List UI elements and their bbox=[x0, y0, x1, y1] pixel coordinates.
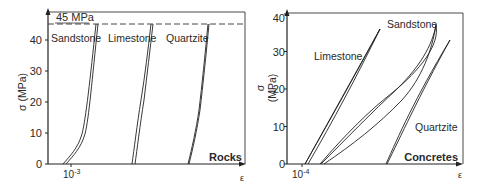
y-axis-label-unit: (MPa) bbox=[266, 74, 278, 103]
series-quartzite-concretes bbox=[386, 40, 450, 164]
x-axis-label: ε bbox=[240, 173, 244, 183]
y-axis-arrow-icon bbox=[46, 8, 51, 15]
y-axis-arrow-icon bbox=[285, 9, 290, 16]
series-limestone-rocks bbox=[132, 24, 153, 164]
y-tick-label: 0 bbox=[36, 158, 42, 170]
series-label-quartzite: Quartzite bbox=[166, 32, 209, 44]
figure: 0 10 20 30 40 σ (MPa) 45 MPa Sandstone L… bbox=[0, 0, 478, 185]
y-tick-label: 10 bbox=[273, 121, 285, 133]
y-axis-label-sigma: σ bbox=[254, 84, 266, 91]
y-tick-label: 0 bbox=[279, 158, 285, 170]
series-quartzite-rocks bbox=[188, 24, 209, 164]
rocks-panel: 0 10 20 30 40 σ (MPa) 45 MPa Sandstone L… bbox=[16, 8, 246, 183]
panel-label-concretes: Concretes bbox=[404, 151, 458, 163]
x-axis-label: ε bbox=[458, 170, 462, 180]
series-label-quartzite: Quartzite bbox=[415, 121, 458, 133]
concretes-panel: 0 10 20 30 40 σ (MPa) Limestone Sandston… bbox=[254, 9, 463, 180]
y-tick-label: 40 bbox=[273, 12, 285, 24]
x-tick-label: 10-4 bbox=[292, 168, 309, 180]
y-tick-label: 10 bbox=[30, 127, 42, 139]
series-label-sandstone: Sandstone bbox=[387, 18, 437, 30]
panel-label-rocks: Rocks bbox=[209, 151, 242, 163]
y-tick-label: 40 bbox=[30, 34, 42, 46]
y-tick-label: 30 bbox=[273, 46, 285, 58]
y-tick-label: 20 bbox=[30, 96, 42, 108]
limit-label: 45 MPa bbox=[56, 11, 95, 23]
series-label-limestone: Limestone bbox=[314, 50, 363, 62]
series-sandstone-rocks bbox=[63, 24, 98, 164]
y-axis-label: σ (MPa) bbox=[16, 73, 28, 111]
x-tick-label: 10-3 bbox=[63, 168, 80, 180]
y-tick-label: 30 bbox=[30, 65, 42, 77]
